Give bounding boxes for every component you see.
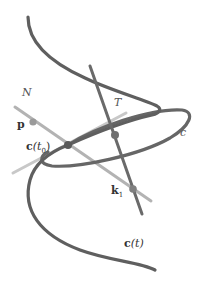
label-circle-c-text: c	[180, 126, 186, 139]
label-T-text: T	[114, 96, 121, 109]
label-k1-sub: 1	[119, 191, 123, 199]
label-N-text: N	[22, 86, 32, 99]
point-c-t0	[64, 141, 72, 149]
label-circle-c: c	[180, 127, 186, 138]
label-p-text: p	[17, 118, 25, 131]
label-N: N	[22, 87, 32, 98]
point-p	[29, 118, 36, 125]
label-c-t0-c: c	[26, 140, 33, 153]
label-T: T	[114, 97, 121, 108]
label-c-t0-close: )	[46, 140, 50, 153]
label-k1-k: k	[111, 184, 119, 197]
label-k1: k1	[111, 185, 123, 199]
label-p: p	[17, 119, 25, 130]
label-c-t0: c(t0)	[26, 141, 50, 155]
label-c-t-c: c	[124, 237, 131, 250]
label-c-t-arg: (t)	[131, 237, 144, 250]
label-c-t: c(t)	[124, 238, 144, 249]
point-k1	[129, 185, 137, 193]
point-center	[111, 131, 119, 139]
